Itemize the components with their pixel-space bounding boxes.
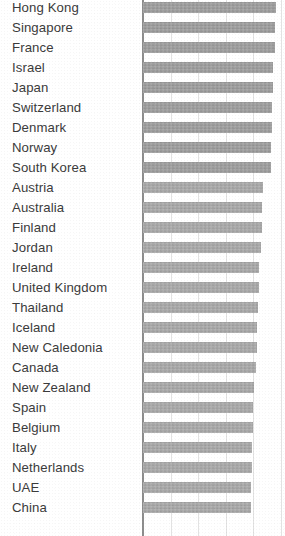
category-label: Ireland [12,258,53,278]
category-label: Canada [12,358,59,378]
bar [143,282,259,293]
category-label: Thailand [12,298,63,318]
category-label: Italy [12,438,37,458]
category-label: New Caledonia [12,338,103,358]
category-label: New Zealand [12,378,91,398]
category-label: Australia [12,198,64,218]
bar-row: Italy [0,438,285,458]
bar-row: France [0,38,285,58]
category-label: South Korea [12,158,86,178]
bar [143,42,275,53]
bar-row: Thailand [0,298,285,318]
bar-row: Iceland [0,318,285,338]
bar-row: Hong Kong [0,0,285,18]
bar [143,62,273,73]
category-label: Jordan [12,238,53,258]
category-label: Finland [12,218,56,238]
bar-row: Israel [0,58,285,78]
category-label: Denmark [12,118,66,138]
category-label: Israel [12,58,45,78]
category-label: UAE [12,478,39,498]
bar [143,482,251,493]
bar-row: New Zealand [0,378,285,398]
category-label: Belgium [12,418,60,438]
bar [143,202,262,213]
bar-row: Austria [0,178,285,198]
bar-row: Netherlands [0,458,285,478]
category-label: Singapore [12,18,73,38]
bar [143,382,254,393]
bar [143,502,251,513]
bar [143,222,262,233]
category-label: Japan [12,78,48,98]
bar [143,342,257,353]
bar [143,262,259,273]
category-label: Norway [12,138,57,158]
category-label: Hong Kong [12,0,79,18]
bar-row: Finland [0,218,285,238]
bar-row: Canada [0,358,285,378]
bar [143,122,272,133]
bar [143,162,271,173]
bar-row: UAE [0,478,285,498]
bar-row: South Korea [0,158,285,178]
bar [143,22,275,33]
bar-row: Jordan [0,238,285,258]
bar [143,442,252,453]
bar [143,182,263,193]
bar [143,322,257,333]
category-label: Austria [12,178,54,198]
bar [143,242,261,253]
bar-row: Japan [0,78,285,98]
bar-row: Spain [0,398,285,418]
bar [143,462,252,473]
bar-row: China [0,498,285,518]
bar-row: Denmark [0,118,285,138]
category-label: France [12,38,54,58]
bar-row: Belgium [0,418,285,438]
category-label: United Kingdom [12,278,107,298]
bar-row: United Kingdom [0,278,285,298]
horizontal-bar-chart: Hong KongSingaporeFranceIsraelJapanSwitz… [0,0,285,536]
bar-row: New Caledonia [0,338,285,358]
bar [143,2,276,13]
bar-row: Norway [0,138,285,158]
bar [143,142,271,153]
category-label: Spain [12,398,46,418]
bar [143,402,253,413]
category-label: China [12,498,47,518]
bar [143,102,272,113]
bar-row: Australia [0,198,285,218]
plot-area: Hong KongSingaporeFranceIsraelJapanSwitz… [0,0,285,536]
bar [143,422,253,433]
bar [143,302,258,313]
bar [143,362,256,373]
bar-row: Switzerland [0,98,285,118]
category-label: Iceland [12,318,55,338]
bar-row: Ireland [0,258,285,278]
category-label: Switzerland [12,98,81,118]
category-label: Netherlands [12,458,84,478]
bar [143,82,273,93]
bar-row: Singapore [0,18,285,38]
